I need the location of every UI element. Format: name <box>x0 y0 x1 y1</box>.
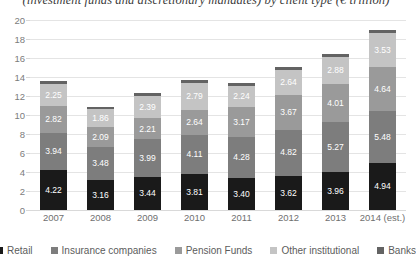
stacked-bar[interactable]: 3.404.283.172.24 <box>228 83 255 210</box>
bar-value-label: 3.81 <box>186 188 203 197</box>
bar-segment[interactable] <box>181 80 208 83</box>
bar-value-label: 3.67 <box>280 108 297 117</box>
x-axis-tick-label: 2014 (est.) <box>359 212 406 230</box>
stacked-bar[interactable]: 3.163.482.091.86 <box>87 107 114 210</box>
x-axis-tick-label: 2010 <box>171 212 218 230</box>
x-axis-tick-label: 2013 <box>312 212 359 230</box>
bar-value-label: 2.88 <box>327 66 344 75</box>
stacked-bar[interactable]: 3.814.112.642.79 <box>181 80 208 210</box>
stacked-bar[interactable]: 3.624.823.672.64 <box>275 67 302 210</box>
bar-column[interactable]: 3.814.112.642.79 <box>171 20 218 210</box>
legend-item[interactable]: Other institutional <box>270 245 359 256</box>
bar-segment[interactable]: 3.62 <box>275 176 302 210</box>
bar-segment[interactable]: 3.16 <box>87 180 114 210</box>
bar-segment[interactable]: 3.48 <box>87 147 114 180</box>
bar-segment[interactable]: 2.64 <box>181 110 208 135</box>
bar-column[interactable]: 3.965.274.012.88 <box>312 20 359 210</box>
bar-segment[interactable]: 1.86 <box>87 109 114 127</box>
bar-segment[interactable]: 3.67 <box>275 95 302 130</box>
bar-segment[interactable]: 3.44 <box>134 177 161 210</box>
bar-segment[interactable] <box>87 107 114 109</box>
bar-segment[interactable]: 4.94 <box>369 163 396 210</box>
y-axis-tick-label: 14 <box>14 72 25 83</box>
bar-segment[interactable] <box>275 67 302 70</box>
y-axis-tick-label: 6 <box>20 148 25 159</box>
bar-segment[interactable] <box>134 93 161 95</box>
legend-item[interactable]: Retail <box>0 245 33 256</box>
bar-segment[interactable] <box>322 54 349 57</box>
bar-segment[interactable] <box>228 83 255 85</box>
bar-segment[interactable]: 3.40 <box>228 178 255 210</box>
bar-value-label: 2.24 <box>233 92 250 101</box>
bar-column[interactable]: 4.945.484.643.53 <box>359 20 406 210</box>
bar-segment[interactable]: 5.48 <box>369 111 396 163</box>
plot-area: 02468101214161820 4.223.942.822.253.163.… <box>30 20 406 210</box>
bar-segment[interactable]: 2.25 <box>40 84 67 105</box>
bar-segment[interactable]: 2.24 <box>228 86 255 107</box>
x-axis-tick-label: 2007 <box>30 212 77 230</box>
bar-segment[interactable]: 3.81 <box>181 174 208 210</box>
bar-segment[interactable] <box>40 81 67 84</box>
bar-value-label: 4.64 <box>374 85 391 94</box>
bar-segment[interactable] <box>369 30 396 33</box>
bar-value-label: 5.48 <box>374 133 391 142</box>
stacked-bar[interactable]: 3.965.274.012.88 <box>322 54 349 210</box>
bar-segment[interactable]: 4.64 <box>369 67 396 111</box>
bar-value-label: 3.48 <box>92 159 109 168</box>
stacked-bar[interactable]: 4.945.484.643.53 <box>369 30 396 210</box>
bar-segment[interactable]: 4.22 <box>40 170 67 210</box>
stacked-bar[interactable]: 3.443.992.212.39 <box>134 93 161 210</box>
legend-item[interactable]: Insurance companies <box>51 245 157 256</box>
bar-segment[interactable]: 3.17 <box>228 107 255 137</box>
bar-segment[interactable]: 4.82 <box>275 130 302 176</box>
legend-label: Pension Funds <box>186 245 253 256</box>
bar-segment[interactable]: 4.01 <box>322 84 349 122</box>
legend-label: Insurance companies <box>62 245 157 256</box>
bar-value-label: 2.25 <box>45 91 62 100</box>
bar-value-label: 2.64 <box>280 78 297 87</box>
bar-column[interactable]: 4.223.942.822.25 <box>30 20 77 210</box>
bar-column[interactable]: 3.443.992.212.39 <box>124 20 171 210</box>
bar-value-label: 2.09 <box>92 133 109 142</box>
bar-column[interactable]: 3.404.283.172.24 <box>218 20 265 210</box>
bar-value-label: 4.11 <box>187 150 203 159</box>
bar-value-label: 3.99 <box>139 154 156 163</box>
stacked-bar[interactable]: 4.223.942.822.25 <box>40 81 67 210</box>
y-axis-tick-label: 18 <box>14 34 25 45</box>
bar-segment[interactable]: 2.09 <box>87 127 114 147</box>
y-axis-tick-label: 12 <box>14 91 25 102</box>
legend-item[interactable]: Banks <box>377 245 416 256</box>
bar-segment[interactable]: 2.21 <box>134 118 161 139</box>
legend-label: Banks <box>388 245 416 256</box>
bar-group: 4.223.942.822.253.163.482.091.863.443.99… <box>30 20 406 210</box>
bar-value-label: 3.62 <box>280 189 297 198</box>
bar-segment[interactable]: 2.88 <box>322 57 349 84</box>
legend-swatch-icon <box>270 247 277 254</box>
bar-segment[interactable]: 2.39 <box>134 96 161 119</box>
bar-segment[interactable]: 4.11 <box>181 135 208 174</box>
legend-swatch-icon <box>377 247 384 254</box>
chart-legend: RetailInsurance companiesPension FundsOt… <box>0 240 412 260</box>
chart-title: (investment funds and discretionary mand… <box>0 0 412 8</box>
bar-segment[interactable]: 3.94 <box>40 133 67 170</box>
bar-value-label: 3.96 <box>327 187 344 196</box>
x-axis-tick-label: 2012 <box>265 212 312 230</box>
legend-item[interactable]: Pension Funds <box>175 245 253 256</box>
bar-segment[interactable]: 3.96 <box>322 172 349 210</box>
bar-column[interactable]: 3.163.482.091.86 <box>77 20 124 210</box>
bar-column[interactable]: 3.624.823.672.64 <box>265 20 312 210</box>
bar-segment[interactable]: 2.79 <box>181 83 208 110</box>
bar-segment[interactable]: 3.99 <box>134 139 161 177</box>
bar-segment[interactable]: 5.27 <box>322 122 349 172</box>
bar-segment[interactable]: 3.53 <box>369 33 396 67</box>
x-axis-labels: 20072008200920102011201220132014 (est.) <box>30 212 406 230</box>
bar-segment[interactable]: 2.64 <box>275 70 302 95</box>
y-axis-tick-label: 0 <box>20 205 25 216</box>
bar-segment[interactable]: 2.82 <box>40 106 67 133</box>
bar-segment[interactable]: 4.28 <box>228 137 255 178</box>
bar-value-label: 5.27 <box>327 143 344 152</box>
bar-value-label: 2.39 <box>139 103 156 112</box>
bar-value-label: 3.40 <box>233 190 250 199</box>
legend-swatch-icon <box>175 247 182 254</box>
